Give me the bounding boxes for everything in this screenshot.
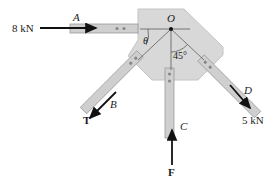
label-8kn: 8 kN [12,23,34,34]
label-t: T [83,115,90,126]
member-c [165,68,174,138]
label-b: B [110,99,117,110]
point-o [169,27,173,31]
label-d: D [244,85,252,96]
label-a: A [73,12,80,23]
label-45: 45° [173,51,187,61]
label-f: F [168,167,175,178]
label-5kn: 5 kN [242,115,264,126]
diagram-canvas [0,0,279,189]
label-theta: θ [143,36,148,46]
label-o: O [167,13,175,24]
label-c: C [180,121,187,132]
